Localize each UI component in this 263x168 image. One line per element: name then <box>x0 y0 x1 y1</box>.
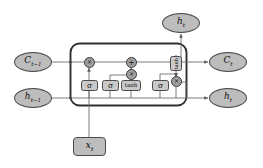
node-hidden-state-next[interactable]: ht <box>209 88 247 108</box>
gate-forget-label: σ <box>87 82 92 90</box>
operator-mul-input-label: × <box>129 71 134 78</box>
gate-output-label: σ <box>158 82 163 90</box>
node-hidden-state-out-top[interactable]: ht <box>162 13 200 33</box>
gate-output-sigma[interactable]: σ <box>152 80 169 91</box>
operator-mul-input[interactable]: × <box>126 69 137 80</box>
lstm-diagram: Ct−1 ht−1 Ct ht ht xt σ σ tan <box>0 0 263 168</box>
operator-mul-output-label: × <box>174 78 179 85</box>
gate-candidate-label: tanh <box>125 83 138 89</box>
gate-forget-sigma[interactable]: σ <box>81 80 98 91</box>
node-input-x[interactable]: xt <box>73 137 106 156</box>
operator-mul-forget-label: × <box>87 59 92 66</box>
label-input-x: xt <box>86 141 93 152</box>
label-hidden-state-prev: ht−1 <box>25 92 41 103</box>
operator-mul-forget[interactable]: × <box>84 57 95 68</box>
node-cell-state-prev[interactable]: Ct−1 <box>14 52 52 72</box>
label-hidden-state-out-top: ht <box>177 17 185 28</box>
operator-add-cell-label: + <box>128 59 134 67</box>
gate-cell-tanh[interactable]: tanh <box>170 56 182 71</box>
label-cell-state-next: Ct <box>223 56 232 67</box>
gate-candidate-tanh[interactable]: tanh <box>121 80 141 91</box>
gate-input-label: σ <box>108 82 113 90</box>
node-hidden-state-prev[interactable]: ht−1 <box>14 88 52 108</box>
gate-cell-tanh-label: tanh <box>174 58 179 69</box>
label-cell-state-prev: Ct−1 <box>24 56 41 67</box>
label-hidden-state-next: ht <box>224 92 232 103</box>
operator-add-cell[interactable]: + <box>126 57 137 68</box>
gate-input-sigma[interactable]: σ <box>102 80 119 91</box>
operator-mul-output[interactable]: × <box>171 76 182 87</box>
node-cell-state-next[interactable]: Ct <box>209 52 247 72</box>
